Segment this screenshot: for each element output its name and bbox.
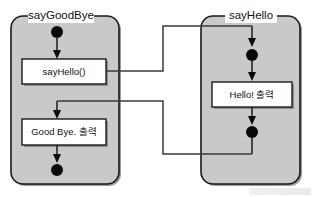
action-goodbye-print-label: Good Bye. 출력: [31, 126, 97, 137]
panel-say-good-bye-body: [11, 16, 119, 184]
start-node-saygoodbye-dot: [51, 26, 63, 38]
action-goodbye-print[interactable]: Good Bye. 출력: [22, 119, 108, 147]
action-hello-print[interactable]: Hello! 출력: [212, 82, 294, 109]
start-node-sayhello-dot: [246, 49, 258, 61]
action-sayhello-call-label: sayHello(): [43, 66, 86, 77]
panel-say-good-bye-title: sayGoodBye: [28, 9, 94, 21]
action-hello-print-label: Hello! 출력: [230, 89, 275, 100]
diagram-canvas: sayGoodBye sayHello() Good Bye. 출력: [0, 0, 314, 197]
end-node-saygoodbye-dot: [51, 164, 63, 176]
panel-say-good-bye[interactable]: sayGoodBye: [11, 9, 121, 186]
end-node-sayhello-dot: [246, 126, 258, 138]
diagram-svg: sayGoodBye sayHello() Good Bye. 출력: [0, 0, 314, 197]
panel-say-hello-title: sayHello: [229, 9, 273, 21]
watermark: [249, 188, 311, 195]
action-sayhello-call[interactable]: sayHello(): [22, 59, 108, 86]
